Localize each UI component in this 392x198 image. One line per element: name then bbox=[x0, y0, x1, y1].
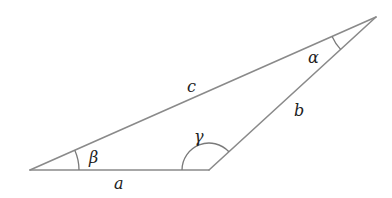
angle-alpha-arc bbox=[332, 36, 341, 49]
angle-gamma-label: γ bbox=[194, 127, 204, 146]
side-b bbox=[209, 17, 376, 170]
angle-beta-label: β bbox=[88, 148, 98, 167]
angle-gamma-arc bbox=[182, 143, 229, 170]
side-b-label: b bbox=[294, 101, 304, 120]
angle-alpha-label: α bbox=[308, 48, 319, 67]
triangle-diagram: c b a α β γ bbox=[0, 0, 392, 198]
side-a-label: a bbox=[114, 174, 124, 193]
side-c-label: c bbox=[187, 77, 196, 96]
angle-beta-arc bbox=[75, 150, 79, 170]
side-c bbox=[30, 17, 376, 170]
